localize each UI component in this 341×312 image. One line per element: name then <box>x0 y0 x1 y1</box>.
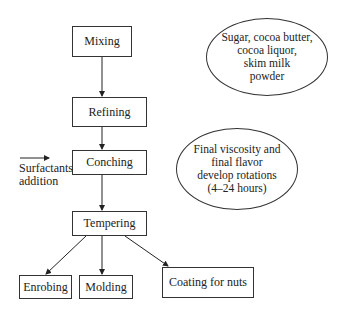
node-enrobing-label: Enrobing <box>23 280 68 295</box>
node-coating-for-nuts: Coating for nuts <box>162 267 254 298</box>
note-conching: Final viscosity and final flavor develop… <box>176 128 298 210</box>
conching-note-line-2: final flavor <box>194 156 281 169</box>
node-conching: Conching <box>72 150 147 175</box>
ingredients-line-3: skim milk <box>221 57 312 70</box>
node-conching-label: Conching <box>86 155 133 170</box>
conching-note-line-4: (4–24 hours) <box>194 182 281 195</box>
ingredients-line-4: powder <box>221 70 312 83</box>
side-input-line-2: addition <box>19 175 73 188</box>
node-refining-label: Refining <box>89 105 131 120</box>
node-molding-label: Molding <box>85 280 126 295</box>
node-molding: Molding <box>79 275 133 299</box>
conching-note-line-3: develop rotations <box>194 169 281 182</box>
conching-note-line-1: Final viscosity and <box>194 143 281 156</box>
side-input-surfactants: Surfactants addition <box>19 162 73 188</box>
node-coating-label: Coating for nuts <box>169 275 247 290</box>
ingredients-line-2: cocoa liquor, <box>221 44 312 57</box>
node-tempering-label: Tempering <box>84 216 136 231</box>
note-ingredients: Sugar, cocoa butter, cocoa liquor, skim … <box>206 18 328 96</box>
node-enrobing: Enrobing <box>19 275 72 299</box>
ingredients-line-1: Sugar, cocoa butter, <box>221 31 312 44</box>
node-tempering: Tempering <box>72 211 147 236</box>
node-mixing-label: Mixing <box>84 34 119 49</box>
node-refining: Refining <box>72 97 147 127</box>
node-mixing: Mixing <box>72 26 132 57</box>
